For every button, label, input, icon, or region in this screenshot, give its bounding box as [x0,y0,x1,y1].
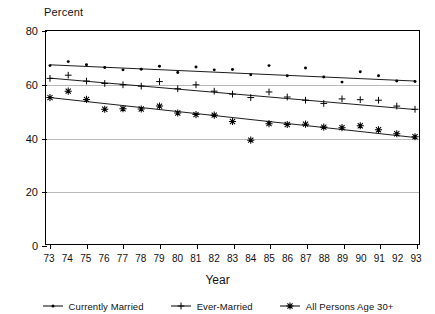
chart-legend: Currently MarriedEver-MarriedAll Persons… [0,300,435,312]
x-tick-label-81: 81 [190,253,201,264]
x-tick-label-85: 85 [264,253,275,264]
legend-marker-plus-icon [170,300,192,312]
legend-marker-dot-icon [42,300,64,312]
y-tick-label-60: 60 [12,79,38,91]
y-axis-title: Percent [44,6,83,18]
x-tick-label-78: 78 [135,253,146,264]
x-tick-label-92: 92 [392,253,403,264]
legend-label-3: All Persons Age 30+ [306,301,394,312]
x-tick-label-86: 86 [282,253,293,264]
x-tick-label-77: 77 [117,253,128,264]
x-tick-label-91: 91 [374,253,385,264]
x-tick-mark-89 [344,244,345,249]
x-tick-mark-81 [197,244,198,249]
x-tick-label-88: 88 [319,253,330,264]
x-tick-label-74: 74 [62,253,73,264]
series-1 [48,60,416,83]
x-tick-mark-83 [234,244,235,249]
x-tick-label-80: 80 [172,253,183,264]
x-tick-label-83: 83 [227,253,238,264]
x-tick-label-75: 75 [80,253,91,264]
y-tick-label-40: 40 [12,133,38,145]
y-tick-label-0: 0 [12,240,38,252]
legend-label-2: Ever-Married [197,301,253,312]
x-tick-mark-75 [87,244,88,249]
x-tick-mark-91 [380,244,381,249]
legend-marker-asterisk-icon [279,300,301,312]
x-tick-label-73: 73 [43,253,54,264]
x-tick-mark-85 [270,244,271,249]
chart-root: Percent 020406080 7374757677787980818283… [0,0,435,314]
legend-item-1[interactable]: Currently Married [42,300,144,312]
plot-area: 020406080 [45,30,420,245]
data-series-layer [46,31,419,244]
x-tick-label-93: 93 [410,253,421,264]
x-tick-label-76: 76 [98,253,109,264]
x-tick-mark-93 [417,244,418,249]
x-tick-label-90: 90 [355,253,366,264]
trendline-3 [50,98,415,138]
x-tick-mark-73 [50,244,51,249]
legend-item-3[interactable]: All Persons Age 30+ [279,300,394,312]
x-tick-mark-79 [160,244,161,249]
x-tick-label-79: 79 [154,253,165,264]
legend-item-2[interactable]: Ever-Married [170,300,253,312]
x-tick-mark-87 [307,244,308,249]
x-tick-label-89: 89 [337,253,348,264]
x-tick-mark-77 [123,244,124,249]
x-axis-title: Year [0,273,435,287]
x-tick-label-87: 87 [300,253,311,264]
legend-label-1: Currently Married [69,301,144,312]
y-tick-label-80: 80 [12,25,38,37]
y-tick-label-20: 20 [12,186,38,198]
y-tick-mark-0 [42,246,47,247]
x-tick-label-84: 84 [245,253,256,264]
x-tick-label-82: 82 [209,253,220,264]
